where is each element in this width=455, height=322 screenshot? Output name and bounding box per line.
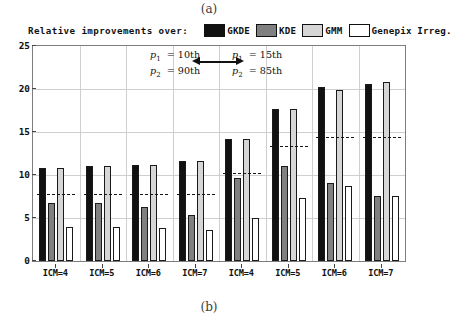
y-tick-label: 25 bbox=[4, 40, 30, 51]
reference-dashed-line bbox=[84, 194, 122, 195]
bar-group bbox=[39, 46, 73, 261]
bar-gmm bbox=[243, 139, 250, 261]
reference-dashed-line bbox=[363, 137, 401, 138]
legend-swatch-genepix bbox=[349, 24, 370, 37]
bar-gkde bbox=[272, 109, 279, 261]
bar-genepix-irreg bbox=[299, 198, 306, 261]
bar-gkde bbox=[132, 165, 139, 261]
bar-kde bbox=[188, 215, 195, 261]
legend-entry-genepix: Genepix Irreg. bbox=[349, 24, 455, 37]
bar-gmm bbox=[104, 166, 111, 261]
reference-dashed-line bbox=[37, 194, 75, 195]
legend-label-gmm: GMM bbox=[325, 25, 342, 36]
y-tick-mark bbox=[32, 217, 36, 218]
bar-group bbox=[86, 46, 120, 261]
bar-gkde bbox=[365, 84, 372, 261]
bar-gkde bbox=[86, 166, 93, 261]
x-tick-label: ICM=4 bbox=[216, 268, 266, 278]
gridline-vertical bbox=[312, 46, 313, 261]
bar-gmm bbox=[336, 90, 343, 261]
bar-gmm bbox=[57, 168, 64, 261]
y-tick-mark bbox=[32, 174, 36, 175]
legend-label-kde: KDE bbox=[279, 25, 296, 36]
legend-swatch-gkde bbox=[204, 24, 225, 37]
y-tick-mark bbox=[32, 131, 36, 132]
figure-caption-a: (a) bbox=[0, 2, 418, 16]
bar-genepix-irreg bbox=[113, 227, 120, 261]
bar-genepix-irreg bbox=[392, 196, 399, 261]
legend-entry-gkde: GKDE bbox=[204, 24, 254, 37]
bar-gmm bbox=[197, 161, 204, 261]
x-tick-label: ICM=7 bbox=[356, 268, 406, 278]
y-tick-label: 0 bbox=[4, 255, 30, 266]
reference-dashed-line bbox=[316, 137, 354, 138]
reference-dashed-line bbox=[223, 173, 261, 174]
bar-kde bbox=[234, 178, 241, 261]
figure-caption-b: (b) bbox=[0, 300, 418, 314]
legend-entry-kde: KDE bbox=[256, 24, 300, 37]
y-tick-label: 15 bbox=[4, 126, 30, 137]
gridline-vertical bbox=[359, 46, 360, 261]
y-tick-label: 5 bbox=[4, 212, 30, 223]
y-tick-label: 20 bbox=[4, 83, 30, 94]
y-tick-mark bbox=[32, 88, 36, 89]
bar-gmm bbox=[290, 109, 297, 261]
bar-gkde bbox=[39, 168, 46, 261]
bar-kde bbox=[281, 166, 288, 261]
bar-gkde bbox=[318, 87, 325, 261]
panel-split-arrow bbox=[192, 57, 244, 66]
bar-kde bbox=[48, 203, 55, 261]
bar-gkde bbox=[179, 161, 186, 261]
bar-group bbox=[365, 46, 399, 261]
bar-gmm bbox=[150, 165, 157, 261]
reference-dashed-line bbox=[270, 146, 308, 147]
chart-legend: Relative improvements over: GKDE KDE GMM… bbox=[18, 22, 414, 38]
bar-group bbox=[318, 46, 352, 261]
gridline-vertical bbox=[219, 46, 220, 261]
x-tick-label: ICM=7 bbox=[170, 268, 220, 278]
x-tick-label: ICM=4 bbox=[30, 268, 80, 278]
bar-genepix-irreg bbox=[159, 228, 166, 261]
legend-entry-gmm: GMM bbox=[302, 24, 346, 37]
arrow-head-right-icon bbox=[236, 57, 244, 65]
x-tick-label: ICM=5 bbox=[263, 268, 313, 278]
plot-area bbox=[32, 45, 406, 262]
x-tick-label: ICM=6 bbox=[309, 268, 359, 278]
y-tick-mark bbox=[32, 260, 36, 261]
bar-genepix-irreg bbox=[252, 218, 259, 261]
bar-kde bbox=[95, 203, 102, 261]
reference-dashed-line bbox=[130, 194, 168, 195]
y-tick-label: 10 bbox=[4, 169, 30, 180]
bar-gkde bbox=[225, 139, 232, 261]
bar-kde bbox=[141, 207, 148, 261]
bar-kde bbox=[374, 196, 381, 261]
legend-label-genepix: Genepix Irreg. bbox=[372, 25, 452, 36]
y-tick-mark bbox=[32, 45, 36, 46]
x-tick-label: ICM=5 bbox=[77, 268, 127, 278]
legend-title: Relative improvements over: bbox=[28, 25, 188, 36]
bar-gmm bbox=[383, 82, 390, 261]
x-axis: ICM=4ICM=5ICM=6ICM=7ICM=4ICM=5ICM=6ICM=7 bbox=[32, 264, 406, 280]
y-axis: 0510152025 bbox=[0, 45, 30, 262]
bar-genepix-irreg bbox=[206, 230, 213, 261]
legend-label-gkde: GKDE bbox=[227, 25, 250, 36]
arrow-line bbox=[198, 61, 238, 63]
gridline-vertical bbox=[126, 46, 127, 261]
x-tick-label: ICM=6 bbox=[123, 268, 173, 278]
bar-kde bbox=[327, 183, 334, 261]
gridline-vertical bbox=[80, 46, 81, 261]
legend-swatch-kde bbox=[256, 24, 277, 37]
reference-dashed-line bbox=[177, 194, 215, 195]
bar-genepix-irreg bbox=[345, 186, 352, 261]
legend-swatch-gmm bbox=[302, 24, 323, 37]
bar-genepix-irreg bbox=[66, 227, 73, 261]
